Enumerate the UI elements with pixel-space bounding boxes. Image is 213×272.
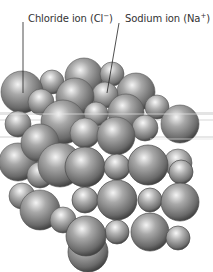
chloride-label-close: ) — [109, 13, 113, 24]
nacl-lattice-diagram: Chloride ion (Cl−) Sodium ion (Na+) — [0, 0, 213, 272]
chloride-ion-label: Chloride ion (Cl−) — [28, 12, 113, 24]
sphere-layer-front — [65, 145, 199, 272]
lattice-graphic — [0, 0, 213, 272]
chloride-label-text: Chloride ion (Cl — [28, 13, 103, 24]
sodium-label-close: ) — [206, 13, 210, 24]
sodium-label-text: Sodium ion (Na — [125, 13, 200, 24]
sodium-ion-label: Sodium ion (Na+) — [125, 12, 210, 24]
